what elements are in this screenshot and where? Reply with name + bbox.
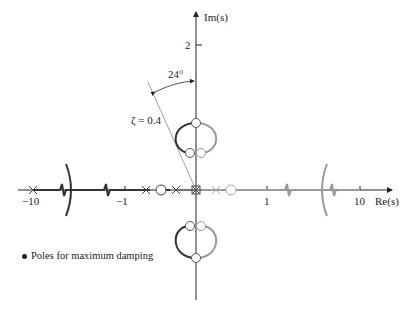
right-branch (200, 164, 360, 216)
x-tick-neg10: −10 (22, 195, 40, 207)
zero-marker (156, 185, 166, 195)
root-locus-diagram: Im(s) 2 −10 −1 1 10 Re(s) 24° ζ = 0.4 (0, 0, 415, 320)
x-tick-neg1: −1 (116, 195, 128, 207)
legend: Poles for maximum damping (22, 250, 153, 261)
legend-text: Poles for maximum damping (31, 250, 153, 261)
legend-dot-icon (22, 254, 27, 259)
x-tick-1: 1 (264, 195, 270, 207)
angle-label: 24° (168, 68, 183, 80)
y-axis-label: Im(s) (204, 11, 228, 24)
x-axis-label: Re(s) (375, 195, 399, 208)
y-tick-2: 2 (185, 39, 191, 51)
zero-marker (226, 185, 236, 195)
damping-line (148, 81, 196, 190)
damping-label: ζ = 0.4 (131, 114, 162, 127)
x-tick-10: 10 (354, 195, 366, 207)
